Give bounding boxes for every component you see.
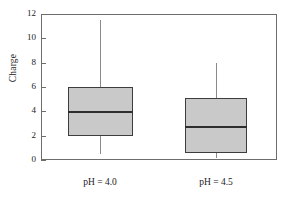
whisker-lower (216, 153, 217, 158)
y-axis-tick (41, 111, 46, 112)
median-line (185, 126, 247, 128)
chart-title (60, 0, 240, 2)
y-axis-tick (41, 63, 46, 64)
y-axis-tick-label: 12 (14, 9, 36, 18)
y-axis-tick (41, 38, 46, 39)
whisker-upper (100, 20, 101, 87)
y-axis-tick-label: 8 (14, 58, 36, 67)
y-axis-tick (41, 160, 46, 161)
whisker-lower (100, 136, 101, 154)
y-axis-tick-label: 2 (14, 131, 36, 140)
whisker-upper (216, 63, 217, 98)
boxplot-figure: Charge 024681012 pH = 4.0pH = 4.5 (0, 0, 291, 201)
y-axis-tick-labels: 024681012 (12, 0, 36, 201)
median-line (68, 111, 133, 113)
y-axis-tick (41, 87, 46, 88)
y-axis-tick (41, 14, 46, 15)
y-axis-tick-label: 6 (14, 82, 36, 91)
x-axis-tick-label: pH = 4.5 (166, 177, 266, 188)
x-axis-tick-label: pH = 4.0 (50, 177, 150, 188)
y-axis-tick-label: 10 (14, 33, 36, 42)
y-axis-tick (41, 136, 46, 137)
y-axis-tick-label: 4 (14, 106, 36, 115)
y-axis-tick-label: 0 (14, 155, 36, 164)
